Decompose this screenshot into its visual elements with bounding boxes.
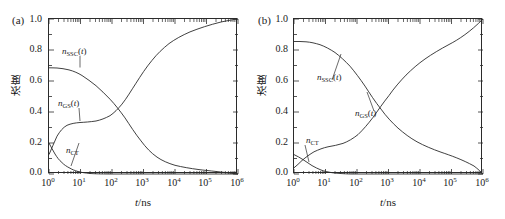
panel-b-x-axis-label: t/ns (353, 196, 423, 208)
panel-a-xtick-4: 104 (162, 176, 186, 188)
panel-b-xtick-6: 106 (470, 176, 494, 188)
panel-b-xtick-0: 100 (281, 176, 305, 188)
panel-a-ytick-1.0: 1.0 (14, 13, 42, 24)
panel-b-label-nCT: nCT (306, 135, 319, 145)
panel-a-ytick-0.8: 0.8 (14, 43, 42, 54)
panel-b-xtick-4: 104 (407, 176, 431, 188)
panel-a-ytick-0.4: 0.4 (14, 105, 42, 116)
panel-a: (a) 浓度 1.0 0.8 0.6 0.4 0.2 0.0 (0, 0, 253, 219)
panel-b-ytick-0.2: 0.2 (260, 136, 288, 147)
panel-a-label-nSSC: nSSC(t) (62, 46, 87, 56)
panel-b-label-nSSC: nSSC(t) (317, 72, 342, 82)
panel-b: (b) 浓度 1.0 0.8 0.6 0.4 0.2 0.0 (250, 0, 503, 219)
panel-a-xtick-3: 103 (130, 176, 154, 188)
panel-a-label-nCT: nCT (66, 145, 79, 155)
panel-b-label-nGS: nGS(t) (355, 108, 376, 118)
panel-a-label-nGS: nGS(t) (58, 98, 79, 108)
panel-b-xtick-2: 102 (344, 176, 368, 188)
panel-b-xtick-3: 103 (375, 176, 399, 188)
panel-b-ytick-0.8: 0.8 (260, 43, 288, 54)
panel-b-curve-nGS (294, 19, 483, 168)
panel-a-minor-x-ticks (59, 19, 237, 174)
panel-a-label-nCT-n: n (66, 145, 71, 155)
panel-b-curves (294, 19, 483, 174)
panel-b-plot-area (293, 18, 482, 173)
panel-a-xtick-5: 105 (193, 176, 217, 188)
panel-a-label-nGS-n: n (58, 98, 63, 108)
panel-a-ytick-0.2: 0.2 (14, 136, 42, 147)
panel-a-label-nSSC-sub: SSC (67, 50, 79, 57)
panel-a-xtick-1: 101 (67, 176, 91, 188)
panel-b-ytick-1.0: 1.0 (260, 13, 288, 24)
panel-a-ytick-0.6: 0.6 (14, 74, 42, 85)
panel-a-label-nCT-sub: CT (71, 149, 79, 156)
panel-b-label-nGS-n: n (355, 108, 360, 118)
leader-nCT-b (305, 145, 309, 162)
panel-b-curve-nSSC (294, 41, 483, 174)
panel-a-label-nSSC-n: n (62, 46, 67, 56)
panel-a-xtick-2: 102 (99, 176, 123, 188)
panel-b-xtick-5: 105 (438, 176, 462, 188)
panel-b-label-nSSC-n: n (317, 72, 322, 82)
panel-b-label-nCT-n: n (306, 135, 311, 145)
panel-a-x-axis-unit: /ns (138, 196, 151, 208)
panel-a-xtick-0: 100 (36, 176, 60, 188)
panel-a-curve-nSSC (49, 68, 238, 174)
panel-b-xtick-1: 101 (312, 176, 336, 188)
panel-b-minor-x-ticks (304, 19, 482, 174)
panel-a-x-axis-label: t/ns (108, 196, 178, 208)
panel-b-x-axis-unit: /ns (383, 196, 396, 208)
panel-b-ytick-0.4: 0.4 (260, 105, 288, 116)
panel-b-label-nCT-sub: CT (311, 139, 319, 146)
figure-root: (a) 浓度 1.0 0.8 0.6 0.4 0.2 0.0 (0, 0, 505, 219)
panel-b-label-nGS-sub: GS (360, 112, 368, 119)
leader-nGS-a (79, 108, 80, 121)
panel-a-curve-nGS (49, 19, 238, 155)
panel-b-label-nSSC-sub: SSC (322, 76, 334, 83)
panel-b-ytick-0.6: 0.6 (260, 74, 288, 85)
panel-a-xtick-6: 106 (225, 176, 249, 188)
panel-a-label-nGS-sub: GS (63, 102, 71, 109)
